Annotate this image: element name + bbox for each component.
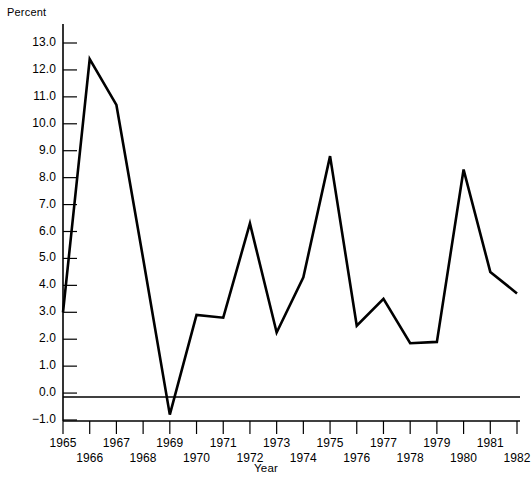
- x-tick-label: 1969: [148, 436, 192, 450]
- x-tick-label: 1965: [41, 436, 85, 450]
- x-tick-label: 1967: [94, 436, 138, 450]
- x-tick-label: 1971: [201, 436, 245, 450]
- y-axis-ticks: [63, 43, 77, 420]
- plot-area: [0, 0, 532, 486]
- y-tick-label: 12.0: [12, 62, 56, 76]
- y-tick-label: 2.0: [12, 331, 56, 345]
- y-tick-label: 13.0: [12, 35, 56, 49]
- data-series-line: [63, 59, 517, 414]
- x-axis-ticks: [63, 421, 517, 434]
- y-tick-label: 5.0: [12, 250, 56, 264]
- y-tick-label: 8.0: [12, 170, 56, 184]
- y-tick-label: 9.0: [12, 143, 56, 157]
- y-tick-label: 11.0: [12, 89, 56, 103]
- y-tick-label: 7.0: [12, 197, 56, 211]
- x-tick-label: 1975: [308, 436, 352, 450]
- y-tick-label: 4.0: [12, 277, 56, 291]
- x-tick-label: 1981: [468, 436, 512, 450]
- y-tick-label: 3.0: [12, 304, 56, 318]
- x-tick-label: 1973: [255, 436, 299, 450]
- y-tick-label: −1.0: [12, 412, 56, 426]
- x-tick-label: 1979: [415, 436, 459, 450]
- chart-container: Percent 13.012.011.010.09.08.07.06.05.04…: [0, 0, 532, 486]
- x-axis-title: Year: [0, 462, 532, 474]
- y-tick-label: 0.0: [12, 385, 56, 399]
- y-tick-label: 10.0: [12, 116, 56, 130]
- y-tick-label: 1.0: [12, 358, 56, 372]
- y-tick-label: 6.0: [12, 224, 56, 238]
- x-tick-label: 1977: [361, 436, 405, 450]
